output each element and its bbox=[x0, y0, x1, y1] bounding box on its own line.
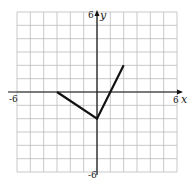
x-min-tick-label: -6 bbox=[9, 94, 18, 104]
y-axis-arrow-icon bbox=[95, 10, 100, 16]
y-min-tick-label: -6 bbox=[88, 170, 97, 180]
y-axis-label: y bbox=[99, 9, 107, 22]
coordinate-plane: -6 6 6 -6 x y bbox=[0, 0, 190, 181]
axes bbox=[8, 10, 183, 175]
y-max-tick-label: 6 bbox=[88, 10, 94, 20]
x-max-tick-label: 6 bbox=[173, 95, 179, 105]
x-axis-label: x bbox=[181, 93, 188, 106]
